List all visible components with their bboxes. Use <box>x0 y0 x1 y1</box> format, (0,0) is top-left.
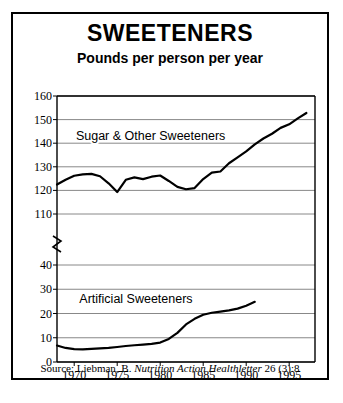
series-label-sugar: Sugar & Other Sweeteners <box>76 129 225 143</box>
source-citation: Source: Liebman, B. Nutrition Action Hea… <box>13 362 327 374</box>
source-journal: Nutrition Action Healthletter <box>134 362 262 374</box>
series-line-artificial <box>57 302 255 350</box>
source-prefix: Source: Liebman, B. <box>40 362 134 374</box>
y-tick-label: 110 <box>34 207 52 221</box>
y-tick-label: 130 <box>34 160 52 174</box>
chart-title: SWEETENERS <box>13 20 327 47</box>
source-suffix: 26 (3):8 <box>262 362 300 374</box>
y-tick-label: 140 <box>34 136 52 150</box>
y-tick-label: 40 <box>40 258 52 272</box>
y-tick-label: 10 <box>40 331 52 345</box>
series-label-artificial: Artificial Sweeteners <box>79 292 192 306</box>
figure-frame: SWEETENERS Pounds per person per year 11… <box>11 12 329 380</box>
y-tick-label: 20 <box>40 307 52 321</box>
series-line-sugar <box>57 113 306 192</box>
chart-subtitle: Pounds per person per year <box>13 50 327 66</box>
y-tick-label: 150 <box>34 113 52 127</box>
y-tick-label: 160 <box>34 89 52 103</box>
y-tick-label: 120 <box>34 183 52 197</box>
chart-plot: 1101201301401501600102030401970197519801… <box>13 72 331 382</box>
y-tick-label: 30 <box>40 282 52 296</box>
